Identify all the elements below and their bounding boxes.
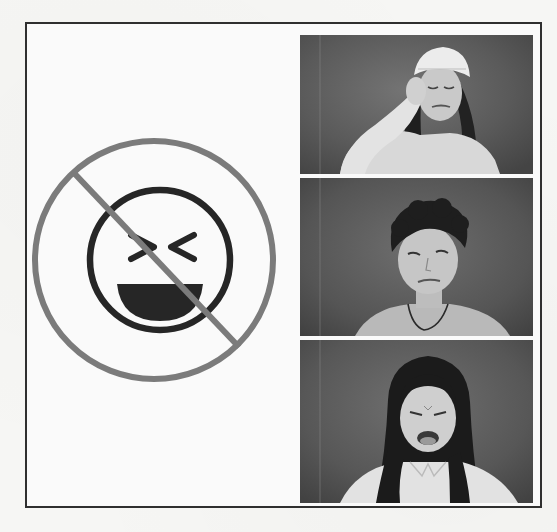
prohibition-icon (35, 141, 273, 379)
photo-sad-expression: sad (300, 178, 533, 336)
illustration-frame: pain (25, 22, 542, 508)
photo-pain-expression: pain (300, 35, 533, 174)
no-laughing-sign (27, 24, 299, 506)
photo-disgust-expression: disgust (300, 340, 533, 503)
